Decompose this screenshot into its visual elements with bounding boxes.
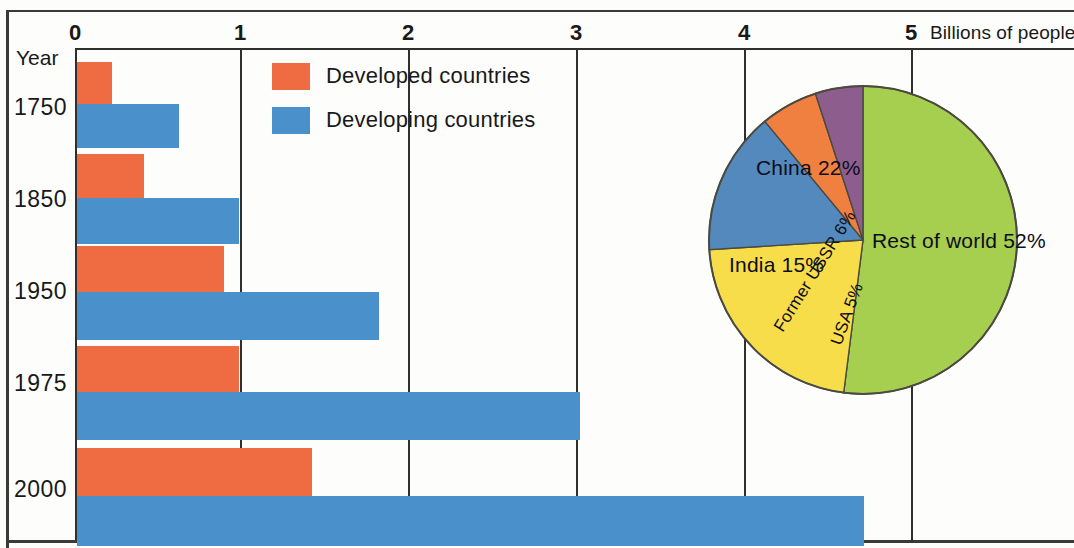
gridline-3 — [576, 50, 578, 542]
axis-tick-5: 5 — [905, 20, 917, 46]
year-label-2000: 2000 — [14, 476, 67, 503]
axis-tick-3: 3 — [570, 20, 582, 46]
chart-page: 0 1 2 3 4 5 Billions of people Year 1750… — [0, 0, 1074, 548]
axis-tick-4: 4 — [738, 20, 750, 46]
year-label-1950: 1950 — [14, 278, 67, 305]
bar-1850-developed — [77, 154, 144, 198]
legend-label-developing: Developing countries — [326, 107, 535, 133]
bar-1850-developing — [77, 198, 239, 244]
frame-left-border — [6, 10, 9, 548]
legend-swatch-developed — [272, 63, 310, 90]
bar-1950-developed — [77, 246, 224, 292]
year-label-1850: 1850 — [14, 186, 67, 213]
axis-tick-1: 1 — [234, 20, 246, 46]
bar-2000-developed — [77, 448, 312, 496]
year-label-1975: 1975 — [14, 370, 67, 397]
frame-top-border — [6, 10, 1074, 12]
bar-1975-developed — [77, 346, 239, 392]
year-column-header: Year — [16, 46, 58, 70]
bar-1750-developed — [77, 62, 112, 104]
legend-swatch-developing — [272, 107, 310, 134]
axis-tick-2: 2 — [402, 20, 414, 46]
axis-unit-label: Billions of people — [930, 22, 1074, 44]
year-label-1750: 1750 — [14, 94, 67, 121]
legend-label-developed: Developed countries — [326, 63, 530, 89]
bar-2000-developing — [77, 496, 864, 546]
pie-label-rest-of-world: Rest of world 52% — [872, 229, 1046, 253]
pie-label-china: China 22% — [756, 156, 861, 180]
legend-item-developed: Developed countries — [272, 58, 535, 94]
legend: Developed countries Developing countries — [272, 58, 535, 146]
bar-1975-developing — [77, 392, 580, 440]
axis-tick-0: 0 — [69, 20, 81, 46]
bar-1950-developing — [77, 292, 379, 340]
legend-item-developing: Developing countries — [272, 102, 535, 138]
bar-1750-developing — [77, 104, 179, 148]
